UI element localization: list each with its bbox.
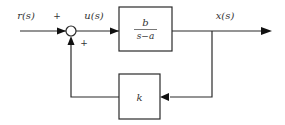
arrowhead-icon [68,36,75,45]
plant-numerator: b [142,17,148,28]
arrowhead-icon [110,28,119,35]
control-label: u(s) [84,10,103,21]
plant-block [119,7,172,51]
input-label: r(s) [17,10,35,21]
block-diagram: b s−a k r(s) + u(s) + x(s) [0,0,285,125]
output-label: x(s) [216,10,235,21]
feedback-gain: k [136,92,142,103]
summing-junction [66,26,76,36]
feedback-branch-wire [170,31,212,97]
arrowhead-icon [160,93,169,101]
plus-sign-top: + [53,11,61,21]
plant-denominator: s−a [137,31,155,41]
feedback-return-wire [71,44,119,97]
arrowhead-icon [261,27,272,35]
arrowhead-icon [57,28,66,35]
plus-sign-bottom: + [80,38,88,48]
